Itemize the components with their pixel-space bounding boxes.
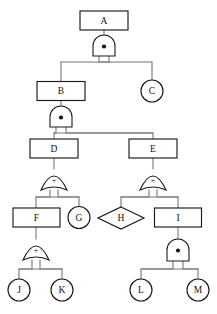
node-j-label: J — [17, 285, 21, 295]
node-a-label: A — [101, 16, 108, 26]
node-a[interactable]: A — [80, 11, 128, 30]
node-b-label: B — [58, 86, 64, 96]
node-l[interactable]: L — [130, 279, 152, 301]
wire-gate-i-to-m — [183, 261, 198, 279]
node-f-label: F — [34, 213, 39, 223]
and-gate-b[interactable] — [50, 106, 72, 127]
wire-gate-d-to-f — [36, 190, 50, 208]
node-k-label: K — [59, 285, 66, 295]
node-g-label: G — [76, 213, 83, 223]
or-gate-d[interactable]: + — [41, 176, 67, 190]
node-l-label: L — [138, 285, 144, 295]
or-gate-d-plus-icon: + — [52, 176, 57, 185]
fault-tree-diagram: A B C D E F G — [0, 0, 217, 314]
wire-gate-i-to-l — [141, 261, 173, 279]
node-d[interactable]: D — [30, 139, 78, 158]
node-h-label: H — [118, 213, 125, 223]
node-j[interactable]: J — [8, 279, 30, 301]
node-m-label: M — [194, 285, 203, 295]
and-gate-a[interactable] — [93, 35, 115, 56]
node-e[interactable]: E — [129, 139, 177, 158]
node-e-label: E — [150, 144, 156, 154]
and-gate-a-dot-icon — [102, 44, 106, 48]
node-b[interactable]: B — [37, 82, 85, 101]
wire-gate-e-to-i — [157, 190, 178, 208]
node-k[interactable]: K — [51, 279, 73, 301]
node-i[interactable]: I — [155, 208, 202, 227]
node-c-label: C — [149, 86, 155, 96]
or-gate-f[interactable]: + — [23, 246, 49, 260]
node-h[interactable]: H — [98, 207, 144, 229]
and-gate-i-dot-icon — [176, 248, 180, 252]
node-f[interactable]: F — [13, 208, 60, 227]
node-g[interactable]: G — [68, 207, 90, 229]
node-d-label: D — [51, 144, 58, 154]
wire-gate-d-to-g — [58, 190, 79, 207]
node-c[interactable]: C — [141, 80, 163, 102]
and-gate-b-dot-icon — [59, 115, 63, 119]
wire-gate-a-to-c — [99, 56, 152, 80]
node-i-label: I — [176, 213, 179, 223]
wire-gate-e-to-h — [121, 190, 149, 207]
or-gate-e[interactable]: + — [140, 176, 166, 190]
node-m[interactable]: M — [187, 279, 209, 301]
or-gate-f-plus-icon: + — [34, 246, 39, 255]
or-gate-e-plus-icon: + — [151, 176, 156, 185]
and-gate-i[interactable] — [167, 239, 189, 261]
